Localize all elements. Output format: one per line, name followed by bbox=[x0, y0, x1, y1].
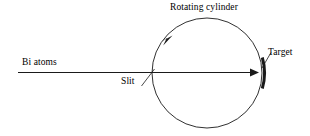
diagram-canvas bbox=[0, 0, 310, 136]
arrow-clockwise-icon bbox=[162, 36, 173, 46]
bi-atoms-label: Bi atoms bbox=[22, 58, 57, 68]
slit-label: Slit bbox=[121, 77, 135, 87]
target-arc bbox=[262, 58, 264, 89]
physics-diagram-figure: Rotating cylinder Bi atoms Slit Target bbox=[0, 0, 310, 136]
target-label: Target bbox=[268, 48, 293, 58]
rotating-cylinder-label: Rotating cylinder bbox=[170, 3, 238, 13]
arrow-right-icon bbox=[250, 69, 259, 77]
